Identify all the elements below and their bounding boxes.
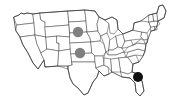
state-texas <box>68 62 99 95</box>
map-canvas <box>0 0 172 105</box>
marker-north-central[interactable] <box>73 27 83 37</box>
state-north-dakota <box>68 10 86 22</box>
us-map-figure <box>0 0 172 105</box>
state-boundaries-layer <box>14 5 166 96</box>
marker-central-plains[interactable] <box>75 48 85 58</box>
state-colorado <box>57 36 71 51</box>
state-pennsylvania <box>123 30 142 41</box>
state-arizona <box>41 49 59 67</box>
marker-southeast[interactable] <box>133 72 143 82</box>
state-wyoming <box>45 25 70 37</box>
